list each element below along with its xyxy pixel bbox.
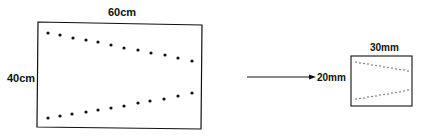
large-bottom-dot-row — [46, 91, 193, 119]
large-panel — [37, 22, 202, 129]
small-panel — [351, 56, 412, 106]
diagram-canvas — [0, 0, 434, 138]
arrow-head-icon — [309, 75, 316, 80]
small-top-dot-row — [355, 61, 408, 71]
large-top-dot-row — [46, 31, 193, 62]
small-bottom-dot-row — [355, 89, 408, 99]
arrow — [247, 75, 316, 80]
